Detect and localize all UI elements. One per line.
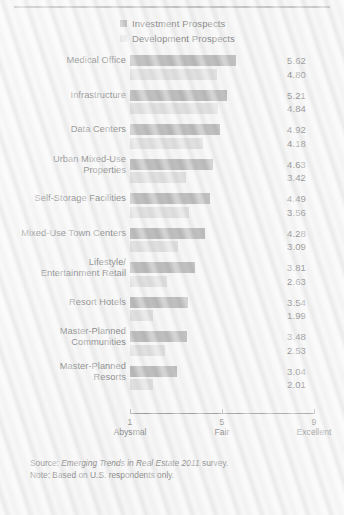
legend-item-investment: Investment Prospects (120, 17, 235, 30)
category-label-line: Master-Planned (8, 326, 126, 337)
axis-tick-text: Excellent (297, 427, 332, 437)
bar-investment (130, 262, 195, 273)
bar-development (130, 241, 178, 252)
bar-development (130, 138, 203, 149)
axis-tick-number: 5 (215, 417, 230, 427)
chart-row: Medical Office5.624.80 (0, 55, 344, 90)
bar-investment (130, 228, 205, 239)
category-label: Master-PlannedCommunities (8, 326, 126, 348)
value-label-group: 5.624.80 (262, 54, 306, 81)
category-label-line: Resort Hotels (8, 297, 126, 308)
value-label-group: 3.812.63 (262, 261, 306, 288)
category-label-line: Resorts (8, 372, 126, 383)
category-label-line: Lifestyle/ (8, 257, 126, 268)
axis-tick-label-group: 9Excellent (297, 417, 332, 437)
footnote-source-prefix: Source: (30, 458, 61, 468)
bar-development (130, 172, 186, 183)
category-label-line: Master-Planned (8, 361, 126, 372)
value-label-development: 1.99 (262, 309, 306, 323)
bar-group (130, 331, 187, 356)
bar-development (130, 207, 189, 218)
bar-investment (130, 366, 177, 377)
value-label-development: 2.53 (262, 344, 306, 358)
value-label-investment: 4.28 (262, 227, 306, 241)
axis-tick (314, 409, 315, 414)
value-label-development: 3.42 (262, 171, 306, 185)
value-label-group: 4.493.56 (262, 192, 306, 219)
value-label-group: 4.633.42 (262, 158, 306, 185)
bar-group (130, 55, 236, 80)
chart-legend: Investment Prospects Development Prospec… (120, 17, 235, 47)
chart-row: Urban Mixed-UseProperties4.633.42 (0, 159, 344, 194)
chart-page: Investment Prospects Development Prospec… (0, 0, 344, 515)
axis-tick-label-group: 1Abysmal (114, 417, 147, 437)
value-label-group: 3.042.01 (262, 365, 306, 392)
axis-tick (222, 409, 223, 414)
category-label: Data Centers (8, 124, 126, 135)
bar-group (130, 297, 188, 322)
value-label-development: 3.56 (262, 206, 306, 220)
value-label-investment: 5.21 (262, 89, 306, 103)
legend-swatch-icon-development (120, 35, 127, 42)
value-label-group: 5.214.84 (262, 89, 306, 116)
chart-row: Master-PlannedResorts3.042.01 (0, 366, 344, 401)
value-label-investment: 3.54 (262, 296, 306, 310)
category-label-line: Mixed-Use Town Centers (8, 228, 126, 239)
legend-label-development: Development Prospects (132, 33, 235, 44)
chart-row: Lifestyle/Entertainment Retail3.812.63 (0, 262, 344, 297)
category-label-line: Urban Mixed-Use (8, 154, 126, 165)
bar-investment (130, 90, 227, 101)
value-label-group: 3.482.53 (262, 330, 306, 357)
value-label-investment: 4.49 (262, 192, 306, 206)
footnote-source-suffix: survey. (200, 458, 229, 468)
value-label-development: 4.80 (262, 68, 306, 82)
category-label-line: Communities (8, 337, 126, 348)
value-label-investment: 3.48 (262, 330, 306, 344)
category-label-line: Data Centers (8, 124, 126, 135)
legend-swatch-icon-investment (120, 20, 127, 27)
category-label-line: Self-Storage Facilities (8, 193, 126, 204)
value-label-development: 3.09 (262, 240, 306, 254)
value-label-investment: 4.92 (262, 123, 306, 137)
value-label-development: 2.63 (262, 275, 306, 289)
bar-chart-plot: Medical Office5.624.80Infrastructure5.21… (0, 55, 344, 400)
bar-development (130, 69, 217, 80)
axis-tick-text: Abysmal (114, 427, 147, 437)
chart-footnote: Source: Emerging Trends in Real Estate 2… (30, 458, 228, 481)
bar-investment (130, 124, 220, 135)
bar-development (130, 379, 153, 390)
category-label: Medical Office (8, 55, 126, 66)
bar-investment (130, 331, 187, 342)
value-label-group: 3.541.99 (262, 296, 306, 323)
bar-investment (130, 193, 210, 204)
value-label-investment: 4.63 (262, 158, 306, 172)
bar-investment (130, 159, 213, 170)
bar-group (130, 159, 213, 184)
bar-group (130, 124, 220, 149)
value-label-investment: 3.81 (262, 261, 306, 275)
bar-development (130, 103, 218, 114)
bar-group (130, 262, 195, 287)
category-label: Master-PlannedResorts (8, 361, 126, 383)
axis-tick-number: 9 (297, 417, 332, 427)
category-label: Mixed-Use Town Centers (8, 228, 126, 239)
bar-investment (130, 55, 236, 66)
bar-development (130, 310, 153, 321)
top-rule-divider (14, 6, 330, 8)
bar-group (130, 366, 177, 391)
bar-group (130, 90, 227, 115)
footnote-source: Source: Emerging Trends in Real Estate 2… (30, 458, 228, 470)
category-label: Urban Mixed-UseProperties (8, 154, 126, 176)
category-label-line: Infrastructure (8, 90, 126, 101)
value-label-group: 4.924.18 (262, 123, 306, 150)
legend-label-investment: Investment Prospects (132, 18, 225, 29)
footnote-source-title: Emerging Trends in Real Estate 2011 (61, 458, 199, 468)
category-label: Resort Hotels (8, 297, 126, 308)
value-label-development: 4.84 (262, 102, 306, 116)
value-label-group: 4.283.09 (262, 227, 306, 254)
axis-tick-text: Fair (215, 427, 230, 437)
chart-row: Infrastructure5.214.84 (0, 90, 344, 125)
footnote-note: Note: Based on U.S. respondents only. (30, 470, 228, 482)
bar-development (130, 276, 167, 287)
bar-development (130, 345, 165, 356)
